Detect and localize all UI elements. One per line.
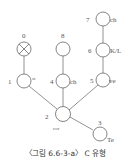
node-number-0: 0 — [22, 32, 26, 40]
node-8 — [56, 42, 70, 56]
node-number-4: 4 — [50, 78, 54, 86]
node-2 — [56, 107, 71, 122]
node-label-1: st — [32, 76, 36, 81]
node-label-2: cor — [53, 126, 60, 131]
node-number-6: 6 — [88, 47, 92, 55]
node-5 — [96, 73, 110, 87]
node-label-7: ch — [110, 16, 117, 24]
edge-2-3 — [70, 117, 93, 130]
node-3 — [93, 127, 107, 141]
node-number-3: 3 — [98, 119, 102, 127]
tree-diagram: 0 1 2 3 4 5 6 7 8 st cor Te ch ve K/L ch — [0, 0, 131, 161]
node-number-5: 5 — [90, 77, 94, 85]
node-label-3: Te — [107, 136, 114, 144]
node-number-8: 8 — [61, 32, 65, 40]
node-number-7: 7 — [86, 16, 90, 24]
edge-5-2 — [69, 85, 98, 110]
node-number-1: 1 — [8, 78, 12, 86]
node-number-2: 2 — [45, 113, 49, 121]
figure-caption: 〈그림 6.6-3-a〉 C 유형 — [0, 147, 131, 158]
node-1 — [17, 74, 31, 88]
node-4 — [56, 74, 70, 88]
node-label-4: ch — [70, 78, 77, 86]
node-0 — [17, 42, 31, 56]
edge-1-2 — [29, 86, 57, 109]
node-label-6: K/L — [110, 47, 121, 55]
node-6 — [96, 43, 110, 57]
node-7 — [96, 12, 110, 26]
node-label-5: ve — [109, 77, 116, 85]
